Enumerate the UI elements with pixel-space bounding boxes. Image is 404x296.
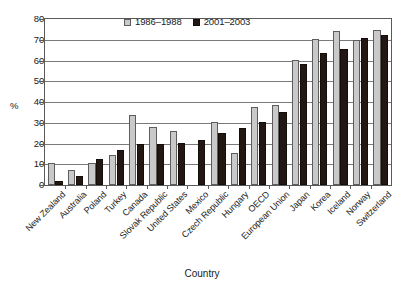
bar [272, 105, 279, 186]
legend-item-1986-1988: 1986–1988 [124, 17, 182, 27]
x-tick-mark [106, 185, 107, 189]
bar-group [373, 19, 388, 185]
bar [340, 49, 347, 185]
bar [381, 35, 388, 185]
bar-group [170, 19, 185, 185]
x-tick-mark [65, 185, 66, 189]
bars-layer [45, 19, 391, 185]
x-axis-tick-labels: New ZealandAustraliaPolandTurkeyCanadaSl… [45, 190, 391, 260]
bar [48, 163, 55, 185]
bar [251, 107, 258, 185]
bar-group [149, 19, 164, 185]
bar [292, 60, 299, 185]
legend-swatch-gray-icon [124, 19, 131, 26]
bar-group [251, 19, 266, 185]
bar-group [68, 19, 83, 185]
bar [361, 38, 368, 185]
x-tick-mark [269, 185, 270, 189]
bar [96, 159, 103, 185]
bar-group [333, 19, 348, 185]
bar [198, 140, 205, 185]
x-tick-mark [126, 185, 127, 189]
x-tick-mark [330, 185, 331, 189]
bar-group [48, 19, 63, 185]
bar-group [109, 19, 124, 185]
x-tick-mark [167, 185, 168, 189]
x-tick-mark [289, 185, 290, 189]
bar [157, 144, 164, 185]
x-tick-mark [310, 185, 311, 189]
bar-group [231, 19, 246, 185]
bar [239, 128, 246, 185]
bar-group [353, 19, 368, 185]
bar [137, 144, 144, 185]
bar-group [88, 19, 103, 185]
bar [279, 112, 286, 185]
bar [76, 176, 83, 185]
legend-item-2001-2003: 2001–2003 [193, 17, 251, 27]
bar [211, 122, 218, 185]
bar [88, 163, 95, 185]
bar [312, 39, 319, 185]
chart-legend: 1986–1988 2001–2003 [124, 17, 250, 27]
legend-label-2001-2003: 2001–2003 [204, 17, 251, 27]
x-tick-mark [147, 185, 148, 189]
bar-group [129, 19, 144, 185]
x-tick-mark [187, 185, 188, 189]
bar-group [312, 19, 327, 185]
bar [218, 133, 225, 185]
x-tick-mark [249, 185, 250, 189]
bar [149, 127, 156, 185]
bar-group [190, 19, 205, 185]
bar [231, 153, 238, 185]
x-tick-mark [350, 185, 351, 189]
bar [117, 150, 124, 185]
bar [259, 122, 266, 185]
legend-label-1986-1988: 1986–1988 [135, 17, 182, 27]
y-axis-title: % [10, 101, 18, 111]
bar-group [292, 19, 307, 185]
bar-chart: % 01020304050607080 1986–1988 2001–2003 … [0, 0, 404, 296]
bar [178, 143, 185, 185]
bar [55, 181, 62, 185]
bar-group [211, 19, 226, 185]
bar [320, 53, 327, 185]
bar [109, 155, 116, 185]
bar [129, 115, 136, 185]
bar [333, 31, 340, 185]
x-tick-mark [86, 185, 87, 189]
bar-group [272, 19, 287, 185]
bar [68, 170, 75, 185]
x-tick-mark [371, 185, 372, 189]
x-tick-mark [228, 185, 229, 189]
bar [373, 30, 380, 185]
bar [300, 64, 307, 185]
x-tick-mark [208, 185, 209, 189]
legend-swatch-black-icon [193, 19, 200, 26]
x-axis-title: Country [0, 268, 404, 279]
bar [170, 131, 177, 185]
bar [353, 40, 360, 185]
